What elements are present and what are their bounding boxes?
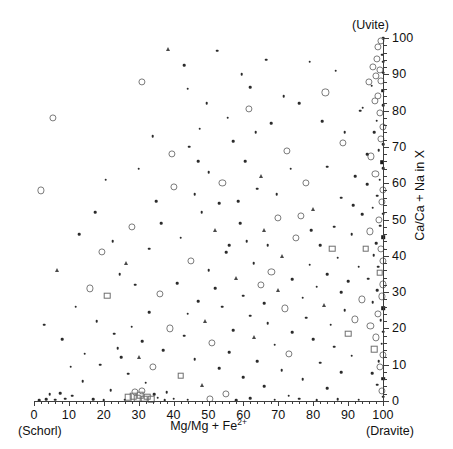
data-point [144,393,151,400]
y-axis-minor-tick [383,96,387,97]
data-point [280,254,284,258]
data-point [372,334,379,341]
data-point [55,268,59,272]
y-axis-major-tick [383,292,389,293]
data-point [375,119,378,122]
y-axis-minor-tick [383,343,387,344]
y-axis-tick-label: 20 [392,321,406,335]
x-axis-minor-tick [160,401,161,404]
x-axis-minor-tick [55,401,56,404]
data-point [291,278,294,281]
data-point [321,120,324,123]
data-point [375,43,382,50]
data-point [298,398,301,401]
data-point [197,160,200,163]
data-point [167,325,174,332]
y-axis-minor-tick [383,270,387,271]
data-point [367,322,374,329]
data-point [208,339,215,346]
y-axis-minor-tick [383,241,387,242]
data-point [244,160,247,163]
data-point [352,204,355,207]
x-axis-minor-tick [306,401,307,404]
data-point [168,151,175,158]
y-axis-minor-tick [383,205,387,206]
x-axis-minor-tick [153,401,154,404]
data-point [365,78,372,85]
data-point [263,385,266,388]
data-point [274,343,277,346]
data-point [37,187,44,194]
y-axis-minor-tick [383,125,387,126]
data-point [148,247,151,250]
x-axis-minor-tick [181,401,182,404]
data-point [130,325,133,328]
data-point [155,200,158,203]
x-axis-major-tick [348,401,349,406]
data-point [94,211,97,214]
data-point [308,60,311,63]
data-point [366,183,369,186]
y-axis-minor-tick [383,154,387,155]
data-point [298,102,301,105]
data-point [347,280,350,283]
x-axis-minor-tick [62,401,63,404]
y-axis-minor-tick [383,372,387,373]
data-point [311,207,315,211]
data-point [371,97,378,104]
data-point [259,174,263,178]
data-point [340,291,343,294]
x-axis-minor-tick [118,401,119,404]
x-axis-minor-tick [125,401,126,404]
data-point [268,269,275,276]
data-point [96,320,99,323]
data-point [359,109,362,112]
data-point [378,360,381,363]
y-axis-tick-label: 10 [392,358,406,372]
data-point [183,64,186,67]
data-point [362,245,369,252]
x-axis-minor-tick [257,401,258,404]
x-axis-major-tick [174,401,175,406]
data-point [78,233,81,236]
x-axis-title-superscript: 2+ [237,417,247,427]
data-point [371,207,374,210]
y-axis-minor-tick [383,82,387,83]
data-point [130,393,137,400]
y-axis-minor-tick [383,285,387,286]
x-axis-minor-tick [320,401,321,404]
y-axis-tick-label: 50 [392,213,406,227]
x-axis-minor-tick [362,401,363,404]
x-axis-major-tick [69,401,70,406]
data-point [370,63,377,70]
data-point [153,393,156,396]
y-axis-minor-tick [383,321,387,322]
x-axis-minor-tick [334,401,335,404]
data-point [64,398,67,401]
data-point [377,265,380,268]
y-axis-major-tick [383,328,389,329]
x-axis-minor-tick [327,401,328,404]
data-point [203,319,207,323]
y-axis-minor-tick [383,249,387,250]
y-axis-major-tick [383,111,389,112]
data-point [213,228,217,232]
y-axis-minor-tick [383,161,387,162]
y-axis-tick-label: 90 [392,67,406,81]
data-point [144,382,147,385]
data-point [104,178,107,181]
y-axis-minor-tick [383,45,387,46]
data-point [113,333,116,336]
data-point [125,394,132,401]
data-point [160,222,163,225]
data-point [357,265,360,268]
data-point [358,296,365,303]
data-point [219,180,226,187]
x-axis-minor-tick [41,401,42,404]
data-point [267,322,270,325]
y-axis-tick-label: 100 [392,31,413,45]
data-point [292,234,299,241]
x-axis-minor-tick [90,401,91,404]
data-point [82,380,85,383]
data-point [361,213,364,216]
